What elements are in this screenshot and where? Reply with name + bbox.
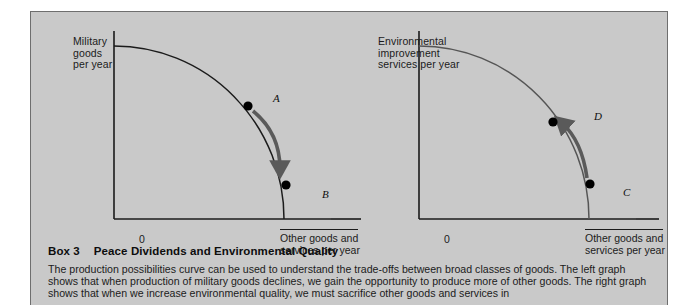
figure-box: Military goods per year Environmental im… (30, 11, 668, 305)
right-graph-svg (31, 12, 669, 234)
caption-box-number: Box 3 (48, 245, 80, 257)
right-graph-point-d (548, 117, 557, 126)
caption-heading: Box 3Peace Dividends and Environmental Q… (48, 245, 655, 257)
caption-block: Box 3Peace Dividends and Environmental Q… (31, 245, 669, 300)
left-graph-point-a-label: A (273, 92, 280, 104)
graphs-area: Military goods per year Environmental im… (31, 12, 669, 234)
right-graph-y-axis-label: Environmental improvement services per y… (378, 36, 460, 71)
left-graph-origin-label: 0 (139, 233, 145, 245)
right-graph-point-d-label: D (594, 110, 602, 122)
right-graph-origin-label: 0 (444, 233, 450, 245)
left-graph-x-label-rule (280, 229, 358, 230)
right-graph-x-label-rule (585, 229, 663, 230)
left-graph-y-axis-label: Military goods per year (73, 36, 112, 71)
caption-body-text: The production possibilities curve can b… (48, 263, 655, 300)
caption-title: Peace Dividends and Environmental Qualit… (94, 245, 338, 257)
left-graph-point-b-label: B (322, 188, 329, 200)
figure-page: Military goods per year Environmental im… (0, 0, 693, 305)
right-graph-point-c (585, 179, 594, 188)
right-graph-ppc-curve (419, 46, 589, 219)
right-graph-point-c-label: C (623, 186, 630, 198)
